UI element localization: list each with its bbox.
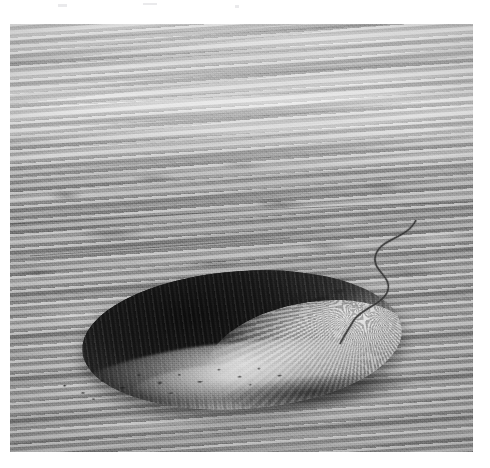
scan-speck: [143, 3, 157, 5]
scan-speck: [235, 5, 239, 8]
page-canvas: [0, 0, 490, 468]
scan-speck: [58, 4, 67, 7]
aerial-photograph: [10, 24, 473, 452]
print-tone-layer: [10, 24, 473, 452]
